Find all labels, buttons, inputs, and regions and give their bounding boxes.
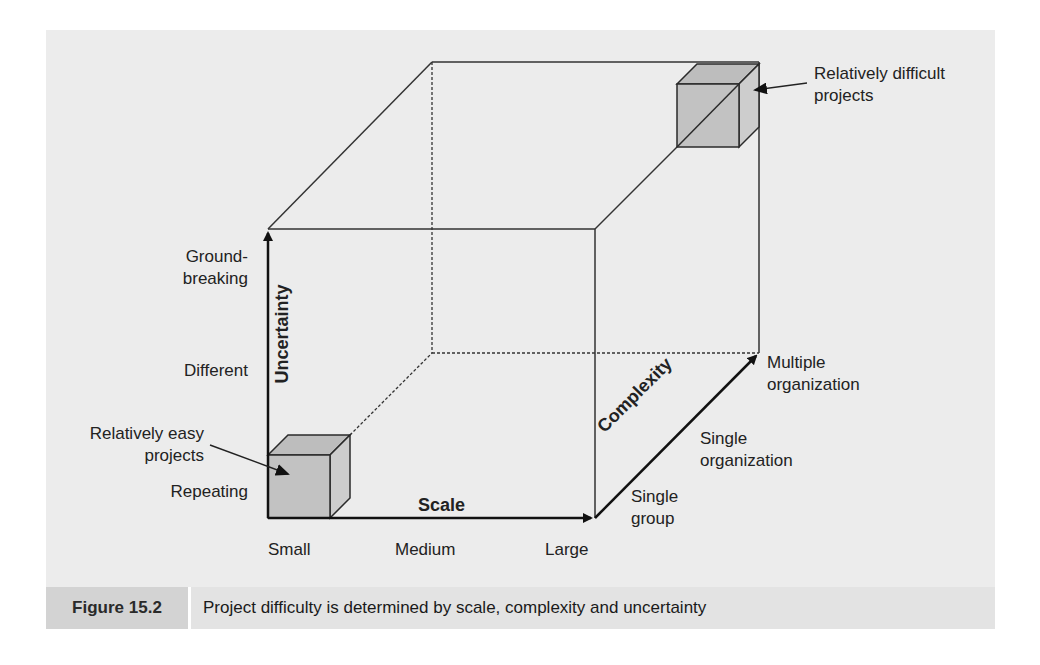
label-line: projects: [814, 85, 945, 107]
complexity-level-single-organization: Single organization: [700, 428, 793, 472]
uncertainty-axis-title: Uncertainty: [271, 284, 293, 383]
difficult-projects-label: Relatively difficult projects: [814, 63, 945, 107]
label-line: Single: [700, 428, 793, 450]
label-line: Relatively easy: [60, 423, 204, 445]
complexity-level-single-group: Single group: [631, 486, 678, 530]
complexity-level-multiple-organization: Multiple organization: [767, 352, 860, 396]
figure-number: Figure 15.2: [46, 587, 188, 629]
easy-projects-label: Relatively easy projects: [60, 423, 204, 467]
difficult-projects-cube: [677, 64, 759, 147]
label-line: Relatively difficult: [814, 63, 945, 85]
label-line: projects: [60, 445, 204, 467]
easy-projects-cube: [268, 435, 350, 518]
label-line: breaking: [140, 268, 248, 290]
label-line: organization: [767, 374, 860, 396]
label-line: Single: [631, 486, 678, 508]
figure-caption: Figure 15.2 Project difficulty is determ…: [46, 587, 995, 629]
label-line: Ground-: [140, 246, 248, 268]
scale-axis-title: Scale: [418, 494, 465, 516]
uncertainty-level-repeating: Repeating: [140, 481, 248, 503]
scale-level-small: Small: [268, 539, 311, 561]
label-line: Multiple: [767, 352, 860, 374]
caption-text: Project difficulty is determined by scal…: [191, 587, 995, 629]
uncertainty-level-different: Different: [140, 360, 248, 382]
scale-level-large: Large: [545, 539, 588, 561]
uncertainty-level-groundbreaking: Ground- breaking: [140, 246, 248, 290]
difficult-annotation-arrow: [755, 83, 807, 90]
scale-level-medium: Medium: [395, 539, 455, 561]
label-line: group: [631, 508, 678, 530]
label-line: organization: [700, 450, 793, 472]
